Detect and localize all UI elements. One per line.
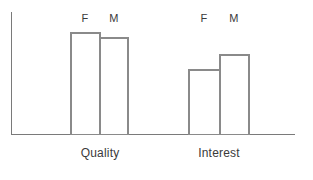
- bar-group-interest: [189, 55, 249, 135]
- series-label-interest-male: M: [229, 12, 238, 24]
- category-label-quality: Quality: [81, 146, 120, 160]
- chart-canvas: F M F M Quality Interest: [0, 0, 313, 180]
- series-labels: F M F M: [81, 12, 238, 24]
- bar-interest-male: [220, 55, 249, 135]
- series-label-quality-female: F: [81, 12, 88, 24]
- bar-group-quality: [71, 33, 128, 135]
- bar-quality-female: [71, 33, 100, 135]
- chart-axes: [11, 12, 295, 135]
- category-labels: Quality Interest: [81, 146, 241, 160]
- bar-quality-male: [100, 38, 128, 135]
- series-label-quality-male: M: [109, 12, 118, 24]
- bar-chart-figure: F M F M Quality Interest: [0, 0, 313, 180]
- bar-interest-female: [189, 70, 220, 135]
- category-label-interest: Interest: [198, 146, 240, 160]
- series-label-interest-female: F: [200, 12, 207, 24]
